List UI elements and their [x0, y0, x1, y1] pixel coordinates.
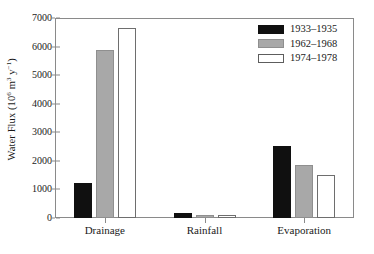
y-tick-label: 5000	[32, 70, 52, 80]
chart-legend: 1933–19351962–19681974–1978	[252, 19, 344, 69]
bar-rainfall-1974–1978	[218, 215, 236, 218]
legend-label: 1974–1978	[290, 53, 337, 64]
legend-label: 1962–1968	[290, 39, 337, 50]
y-axis-label-mid2: y	[6, 69, 17, 77]
legend-item: 1974–1978	[258, 53, 337, 64]
x-tick-mark	[105, 218, 106, 223]
y-axis-label: Water Flux (106 m3 y−1)	[0, 0, 22, 218]
chart-figure: Water Flux (106 m3 y−1) 0100020003000400…	[0, 0, 374, 254]
y-tick-label: 1000	[32, 184, 52, 194]
y-axis-label-prefix: Water Flux (10	[6, 95, 17, 160]
bar-evaporation-1933–1935	[273, 146, 291, 218]
legend-swatch-icon	[258, 54, 284, 63]
y-axis-label-suffix: )	[6, 58, 17, 62]
y-tick-label: 3000	[32, 127, 52, 137]
bar-drainage-1933–1935	[74, 183, 92, 218]
y-tick-label: 6000	[32, 42, 52, 52]
bar-evaporation-1962–1968	[295, 165, 313, 218]
y-tick-label: 2000	[32, 156, 52, 166]
x-category-label-drainage: Drainage	[85, 224, 125, 236]
y-axis-label-exp-y: −1	[5, 61, 13, 69]
legend-item: 1933–1935	[258, 24, 337, 35]
y-axis-label-mid: m	[6, 81, 17, 92]
bar-evaporation-1974–1978	[317, 175, 335, 218]
y-tick-label: 4000	[32, 99, 52, 109]
legend-item: 1962–1968	[258, 39, 337, 50]
x-category-label-rainfall: Rainfall	[187, 224, 222, 236]
bar-rainfall-1933–1935	[174, 213, 192, 218]
x-tick-mark	[205, 218, 206, 223]
bar-drainage-1974–1978	[118, 28, 136, 218]
y-axis-label-exp-m: 3	[5, 77, 13, 81]
y-tick-label: 7000	[32, 13, 52, 23]
legend-swatch-icon	[258, 25, 284, 34]
legend-swatch-icon	[258, 39, 284, 48]
x-tick-mark	[304, 218, 305, 223]
x-category-label-evaporation: Evaporation	[277, 224, 331, 236]
legend-label: 1933–1935	[290, 24, 337, 35]
bar-drainage-1962–1968	[96, 50, 114, 218]
